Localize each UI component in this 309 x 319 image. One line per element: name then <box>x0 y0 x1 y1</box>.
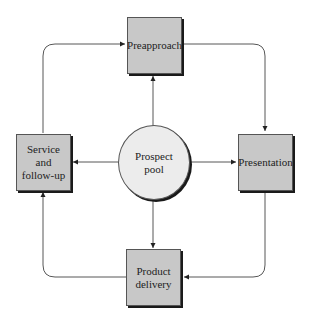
node-preapproach-label: Preapproach <box>127 39 182 52</box>
arrow-service-to-preapproach <box>43 44 125 133</box>
node-preapproach: Preapproach <box>127 17 182 74</box>
arrow-presentation-to-delivery <box>184 192 265 277</box>
node-product-delivery-label: Product delivery <box>135 265 171 291</box>
node-presentation-label: Presentation <box>238 156 292 169</box>
node-presentation: Presentation <box>238 134 293 191</box>
node-prospect-pool: Prospect pool <box>118 125 190 200</box>
arrow-delivery-to-service <box>43 192 126 277</box>
arrow-preapproach-to-presentation <box>182 44 265 131</box>
node-service-followup-label: Service and follow-up <box>22 143 65 182</box>
node-service-followup: Service and follow-up <box>16 134 71 191</box>
node-product-delivery: Product delivery <box>126 249 181 306</box>
node-prospect-pool-label: Prospect pool <box>135 150 173 176</box>
